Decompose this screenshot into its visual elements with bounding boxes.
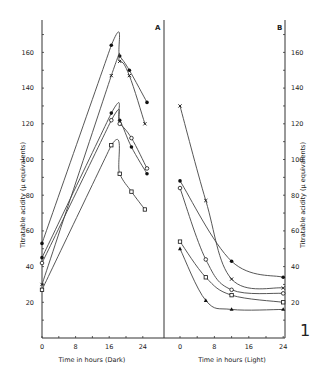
open-square-marker (282, 301, 285, 304)
x-tick-label: 24 (139, 343, 147, 351)
open-square-marker (230, 293, 233, 296)
panel-label-b: B (277, 24, 282, 32)
panel-label-a: A (155, 24, 161, 32)
y-tick-label: 20 (291, 299, 299, 307)
filled-circle-marker (40, 242, 44, 246)
y-axis-title-b: Titratable acidity (µ equivalents) (299, 142, 307, 249)
cross-marker (230, 277, 233, 280)
filled-circle-marker (145, 172, 149, 176)
y-tick-label: 160 (291, 49, 303, 57)
open-circle-marker (110, 118, 114, 122)
y-tick-label: 120 (291, 120, 303, 128)
y-axis-title-a: Titratable acidity (µ equivalents) (19, 142, 27, 249)
series-line (42, 53, 145, 284)
y-tick-label: 20 (26, 299, 34, 307)
filled-circle-marker (130, 145, 134, 149)
filled-circle-marker (230, 259, 234, 263)
y-tick-label: 40 (26, 263, 34, 271)
open-square-marker (110, 144, 113, 147)
open-square-marker (178, 240, 181, 243)
x-tick-label: 16 (105, 343, 113, 351)
filled-circle-marker (110, 43, 114, 47)
open-circle-marker (130, 136, 134, 140)
open-circle-marker (40, 261, 44, 265)
figure-number: 1 (300, 321, 310, 340)
x-tick-label: 0 (178, 343, 182, 351)
filled-circle-marker (281, 276, 285, 280)
x-tick-label: 16 (245, 343, 253, 351)
open-square-marker (204, 276, 207, 279)
filled-circle-marker (110, 111, 114, 115)
axes: 2040608010012014016008162420406080100120… (22, 20, 304, 351)
open-square-marker (40, 288, 43, 291)
series-line (42, 139, 145, 289)
series-line (42, 109, 147, 263)
y-tick-label: 120 (22, 120, 34, 128)
open-circle-marker (230, 288, 234, 292)
y-tick-label: 140 (291, 84, 303, 92)
x-axis-title-a: Time in hours (Dark) (58, 356, 126, 364)
open-circle-marker (145, 167, 149, 171)
open-circle-marker (178, 186, 182, 190)
x-tick-label: 0 (40, 343, 44, 351)
y-tick-label: 160 (22, 49, 34, 57)
x-tick-label: 8 (74, 343, 78, 351)
open-square-marker (118, 172, 121, 175)
filled-circle-marker (145, 101, 149, 105)
y-tick-label: 40 (291, 263, 299, 271)
filled-triangle-marker (178, 247, 182, 251)
figure: 2040608010012014016008162420406080100120… (0, 0, 323, 383)
open-circle-marker (281, 292, 285, 296)
filled-circle-marker (40, 256, 44, 260)
x-axis-title-b: Time in hours (Light) (197, 356, 266, 364)
series-line (180, 188, 283, 294)
filled-circle-marker (178, 179, 182, 183)
open-square-marker (130, 190, 133, 193)
x-tick-label: 8 (212, 343, 216, 351)
open-square-marker (143, 208, 146, 211)
x-tick-label: 24 (279, 343, 287, 351)
open-circle-marker (204, 258, 208, 262)
y-tick-label: 140 (22, 84, 34, 92)
data-series (40, 32, 285, 311)
open-circle-marker (118, 122, 122, 126)
